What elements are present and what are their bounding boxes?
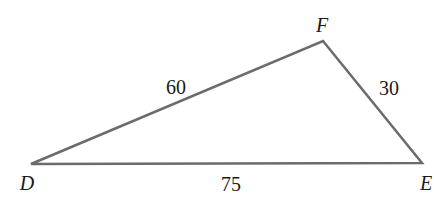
side-label-df: 60 [166, 76, 186, 98]
side-label-fe: 30 [379, 77, 399, 99]
triangle-def [31, 41, 422, 164]
side-label-de: 75 [221, 173, 241, 195]
vertex-label-d: D [19, 172, 35, 194]
vertex-label-f: F [315, 14, 329, 36]
triangle-diagram: D F E 60 30 75 [0, 0, 434, 201]
vertex-label-e: E [419, 172, 432, 194]
